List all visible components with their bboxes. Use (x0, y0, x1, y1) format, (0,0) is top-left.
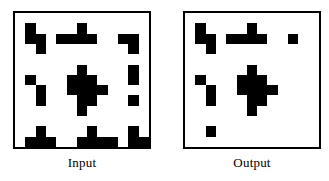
grid-cell-empty[interactable] (226, 106, 236, 116)
grid-cell-empty[interactable] (278, 106, 288, 116)
grid-cell-filled[interactable] (67, 75, 77, 85)
grid-cell-empty[interactable] (216, 34, 226, 44)
grid-cell-empty[interactable] (46, 75, 56, 85)
grid-cell-empty[interactable] (128, 54, 138, 64)
grid-cell-empty[interactable] (139, 106, 149, 116)
grid-cell-empty[interactable] (288, 54, 298, 64)
grid-cell-filled[interactable] (36, 34, 46, 44)
grid-cell-empty[interactable] (206, 116, 216, 126)
grid-cell-empty[interactable] (237, 106, 247, 116)
grid-cell-empty[interactable] (267, 13, 277, 23)
grid-cell-empty[interactable] (108, 54, 118, 64)
grid-cell-empty[interactable] (56, 13, 66, 23)
grid-cell-empty[interactable] (298, 95, 308, 105)
grid-cell-empty[interactable] (139, 126, 149, 136)
grid-cell-empty[interactable] (36, 13, 46, 23)
grid-cell-empty[interactable] (118, 44, 128, 54)
grid-cell-empty[interactable] (36, 23, 46, 33)
grid-cell-empty[interactable] (56, 85, 66, 95)
grid-cell-empty[interactable] (15, 75, 25, 85)
grid-cell-empty[interactable] (87, 23, 97, 33)
grid-cell-filled[interactable] (77, 23, 87, 33)
grid-cell-filled[interactable] (257, 95, 267, 105)
grid-cell-empty[interactable] (237, 54, 247, 64)
grid-cell-empty[interactable] (288, 106, 298, 116)
grid-cell-filled[interactable] (128, 65, 138, 75)
grid-cell-empty[interactable] (257, 23, 267, 33)
grid-cell-empty[interactable] (56, 54, 66, 64)
grid-cell-empty[interactable] (195, 95, 205, 105)
grid-cell-empty[interactable] (298, 116, 308, 126)
grid-cell-filled[interactable] (206, 95, 216, 105)
grid-cell-filled[interactable] (25, 34, 35, 44)
grid-cell-empty[interactable] (185, 13, 195, 23)
grid-cell-filled[interactable] (128, 126, 138, 136)
output-grid[interactable] (185, 13, 319, 147)
grid-cell-filled[interactable] (237, 34, 247, 44)
grid-cell-empty[interactable] (128, 106, 138, 116)
grid-cell-empty[interactable] (108, 65, 118, 75)
grid-cell-empty[interactable] (195, 116, 205, 126)
grid-cell-empty[interactable] (67, 13, 77, 23)
grid-cell-empty[interactable] (185, 95, 195, 105)
grid-cell-empty[interactable] (278, 95, 288, 105)
grid-cell-empty[interactable] (15, 34, 25, 44)
grid-cell-empty[interactable] (118, 65, 128, 75)
grid-cell-empty[interactable] (288, 137, 298, 147)
grid-cell-empty[interactable] (216, 13, 226, 23)
grid-cell-empty[interactable] (108, 106, 118, 116)
grid-cell-filled[interactable] (247, 75, 257, 85)
grid-cell-empty[interactable] (216, 116, 226, 126)
grid-cell-filled[interactable] (25, 137, 35, 147)
grid-cell-filled[interactable] (257, 75, 267, 85)
grid-cell-empty[interactable] (247, 126, 257, 136)
grid-cell-empty[interactable] (237, 95, 247, 105)
grid-cell-empty[interactable] (185, 137, 195, 147)
grid-cell-empty[interactable] (247, 137, 257, 147)
grid-cell-empty[interactable] (278, 65, 288, 75)
grid-cell-empty[interactable] (108, 126, 118, 136)
grid-cell-filled[interactable] (118, 34, 128, 44)
grid-cell-empty[interactable] (36, 116, 46, 126)
grid-cell-empty[interactable] (15, 126, 25, 136)
grid-cell-empty[interactable] (67, 23, 77, 33)
grid-cell-empty[interactable] (108, 85, 118, 95)
grid-cell-empty[interactable] (267, 44, 277, 54)
grid-cell-empty[interactable] (185, 44, 195, 54)
grid-cell-empty[interactable] (226, 116, 236, 126)
grid-cell-empty[interactable] (298, 34, 308, 44)
grid-cell-filled[interactable] (128, 95, 138, 105)
grid-cell-empty[interactable] (56, 75, 66, 85)
grid-cell-empty[interactable] (15, 137, 25, 147)
grid-cell-empty[interactable] (15, 85, 25, 95)
grid-cell-empty[interactable] (309, 23, 319, 33)
grid-cell-empty[interactable] (97, 54, 107, 64)
grid-cell-filled[interactable] (77, 95, 87, 105)
grid-cell-empty[interactable] (15, 44, 25, 54)
grid-cell-empty[interactable] (118, 23, 128, 33)
grid-cell-filled[interactable] (77, 65, 87, 75)
grid-cell-empty[interactable] (237, 137, 247, 147)
grid-cell-empty[interactable] (87, 116, 97, 126)
grid-cell-filled[interactable] (206, 126, 216, 136)
grid-cell-filled[interactable] (195, 23, 205, 33)
grid-cell-empty[interactable] (257, 65, 267, 75)
grid-cell-empty[interactable] (46, 44, 56, 54)
grid-cell-empty[interactable] (46, 126, 56, 136)
grid-cell-empty[interactable] (185, 65, 195, 75)
grid-cell-empty[interactable] (267, 116, 277, 126)
grid-cell-empty[interactable] (206, 54, 216, 64)
grid-cell-empty[interactable] (206, 75, 216, 85)
grid-cell-empty[interactable] (97, 65, 107, 75)
grid-cell-empty[interactable] (56, 44, 66, 54)
grid-cell-empty[interactable] (25, 85, 35, 95)
grid-cell-empty[interactable] (267, 75, 277, 85)
grid-cell-empty[interactable] (195, 85, 205, 95)
grid-cell-empty[interactable] (267, 23, 277, 33)
grid-cell-empty[interactable] (36, 54, 46, 64)
grid-cell-empty[interactable] (46, 13, 56, 23)
grid-cell-filled[interactable] (97, 137, 107, 147)
grid-cell-empty[interactable] (309, 34, 319, 44)
grid-cell-empty[interactable] (278, 137, 288, 147)
grid-cell-empty[interactable] (25, 116, 35, 126)
